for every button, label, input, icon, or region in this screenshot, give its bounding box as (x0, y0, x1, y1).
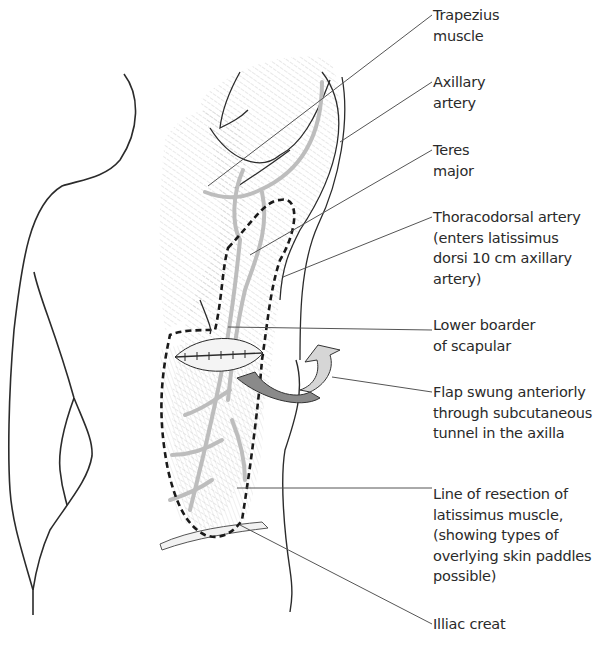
label-iliac-crest: Illiac creat (433, 614, 506, 635)
label-trapezius-muscle: Trapezius muscle (433, 5, 499, 46)
label-line-of-resection: Line of resection of latissimus muscle, … (433, 484, 591, 587)
label-thoracodorsal-artery: Thoracodorsal artery (enters latissimus … (433, 207, 581, 289)
latissimus-flap-diagram: Trapezius muscle Axillary artery Teres m… (0, 0, 596, 650)
label-teres-major: Teres major (433, 140, 474, 181)
label-axillary-artery: Axillary artery (433, 72, 485, 113)
label-flap-swung: Flap swung anteriorly through subcutaneo… (433, 382, 592, 444)
label-lower-border-scapula: Lower boarder of scapular (433, 315, 535, 356)
torso-outline (9, 74, 136, 615)
